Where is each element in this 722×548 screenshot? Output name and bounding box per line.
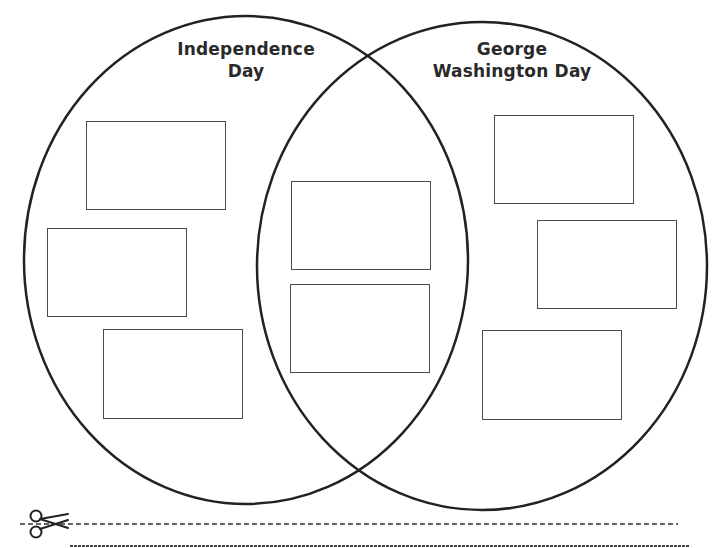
left-answer-box-2[interactable]: [47, 228, 187, 317]
left-set-title-line-1: Independence: [146, 38, 346, 60]
left-answer-box-1[interactable]: [86, 121, 226, 210]
overlap-answer-box-1[interactable]: [291, 181, 431, 270]
right-set-title-line-1: George: [402, 38, 622, 60]
right-answer-box-1[interactable]: [494, 115, 634, 204]
right-set-title-line-2: Washington Day: [402, 60, 622, 82]
right-answer-box-2[interactable]: [537, 220, 677, 309]
left-set-title-line-2: Day: [146, 60, 346, 82]
left-answer-box-3[interactable]: [103, 329, 243, 419]
overlap-answer-box-2[interactable]: [290, 284, 430, 373]
left-set-title: Independence Day: [146, 38, 346, 82]
right-answer-box-3[interactable]: [482, 330, 622, 420]
right-set-title: George Washington Day: [402, 38, 622, 82]
